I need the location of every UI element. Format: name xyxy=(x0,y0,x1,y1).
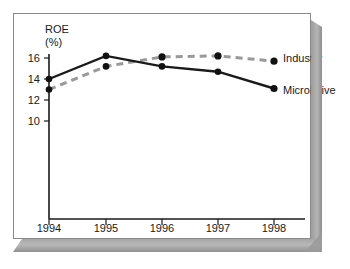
y-tick-label-16: 16 xyxy=(20,53,40,64)
data-point-industry-1997 xyxy=(214,52,221,59)
data-point-microdrive-1995 xyxy=(103,53,110,60)
y-axis-title-line1: ROE xyxy=(45,23,69,35)
x-tick-label-1996: 1996 xyxy=(142,223,182,234)
series-line-microdrive xyxy=(49,56,274,89)
frame-bevel-bottom xyxy=(13,239,322,252)
data-point-microdrive-1997 xyxy=(215,68,222,75)
y-tick-label-14: 14 xyxy=(20,74,40,85)
y-tick-label-10: 10 xyxy=(20,116,40,127)
x-tick-label-1994: 1994 xyxy=(29,223,69,234)
data-point-industry-1994 xyxy=(46,86,53,93)
series-markers-industry xyxy=(46,52,278,92)
data-point-microdrive-1994 xyxy=(46,76,53,83)
data-point-industry-1996 xyxy=(158,53,165,60)
data-point-industry-1995 xyxy=(103,63,110,70)
y-axis-title-line2: (%) xyxy=(45,36,62,48)
series-line-industry xyxy=(49,56,274,90)
x-tick-label-1995: 1995 xyxy=(86,223,126,234)
data-point-microdrive-1996 xyxy=(159,63,166,70)
frame-bevel-right xyxy=(311,20,322,239)
legend-label-microdrive: MicroDrive xyxy=(283,85,336,96)
x-tick-label-1997: 1997 xyxy=(198,223,238,234)
y-tick-label-12: 12 xyxy=(20,95,40,106)
data-point-industry-1998 xyxy=(270,58,277,65)
x-tick-label-1998: 1998 xyxy=(254,223,294,234)
chart-frame: ROE (%) 16 14 12 10 1994 1995 1996 1997 … xyxy=(13,13,311,239)
data-point-microdrive-1998 xyxy=(270,85,277,92)
